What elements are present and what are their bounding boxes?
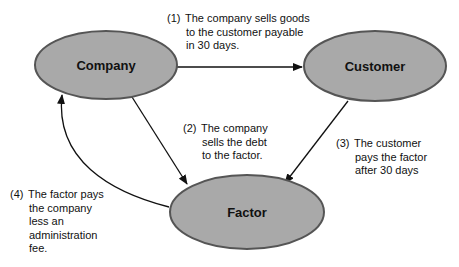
step-3-note: (3)The customer pays the factor after 30…	[336, 137, 427, 178]
step-4-line-4: administration	[10, 229, 104, 243]
step-1-line-1: The company sells goods	[185, 12, 310, 24]
step-1-line-2: to the customer payable	[167, 26, 310, 40]
node-factor-label: Factor	[227, 205, 267, 220]
step-4-line-5: fee.	[10, 242, 104, 256]
step-3-line-3: after 30 days	[336, 164, 427, 178]
step-4-number: (4)	[10, 188, 28, 202]
arrow-company-to-factor	[132, 97, 187, 184]
step-4-line-2: the company	[10, 202, 104, 216]
node-customer-label: Customer	[345, 59, 406, 74]
step-1-line-3: in 30 days.	[167, 39, 310, 53]
step-2-line-3: to the factor.	[183, 149, 268, 163]
step-2-note: (2)The company sells the debt to the fac…	[183, 122, 268, 163]
step-2-line-2: sells the debt	[183, 136, 268, 150]
step-4-note: (4)The factor pays the company less an a…	[10, 188, 104, 256]
step-4-line-1: The factor pays	[28, 188, 104, 200]
step-3-line-2: pays the factor	[336, 151, 427, 165]
node-factor: Factor	[170, 175, 324, 249]
node-company-label: Company	[76, 58, 136, 73]
step-2-line-1: The company	[201, 122, 268, 134]
step-1-number: (1)	[167, 12, 185, 26]
step-3-line-1: The customer	[354, 137, 421, 149]
step-1-note: (1)The company sells goods to the custom…	[167, 12, 310, 53]
step-3-number: (3)	[336, 137, 354, 151]
node-customer: Customer	[304, 31, 446, 101]
node-company: Company	[35, 31, 177, 99]
step-2-number: (2)	[183, 122, 201, 136]
step-4-line-3: less an	[10, 215, 104, 229]
